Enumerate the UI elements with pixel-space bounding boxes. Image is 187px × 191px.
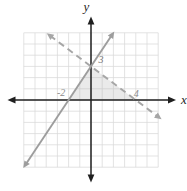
tick-label-4: 4 [134, 88, 139, 99]
tick-label-3: 3 [98, 54, 104, 65]
y-axis-top-arrow-icon [88, 17, 95, 25]
x-axis-label: x [180, 92, 187, 107]
tick-label-neg2: -2 [57, 87, 65, 98]
coordinate-plane: xy-234 [0, 0, 187, 191]
y-axis-label: y [82, 0, 90, 14]
x-axis-right-arrow-icon [168, 97, 176, 104]
y-axis-bottom-arrow-icon [88, 175, 95, 183]
dashed-line-arrow-icon [154, 113, 162, 120]
x-axis-left-arrow-icon [8, 97, 16, 104]
graph-figure: xy-234 [0, 0, 187, 191]
